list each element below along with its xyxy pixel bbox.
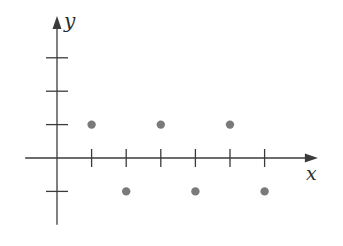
y-axis-label: y (63, 9, 76, 33)
axes (25, 16, 318, 225)
x-axis-label: x (306, 162, 317, 184)
scatter-point (191, 187, 199, 195)
scatter-point (87, 120, 95, 128)
scatter-plot: x y (0, 0, 343, 246)
scatter-point (260, 187, 268, 195)
scatter-point (122, 187, 130, 195)
scatter-point (226, 120, 234, 128)
scatter-point (157, 120, 165, 128)
scatter-figure: x y (0, 0, 343, 246)
